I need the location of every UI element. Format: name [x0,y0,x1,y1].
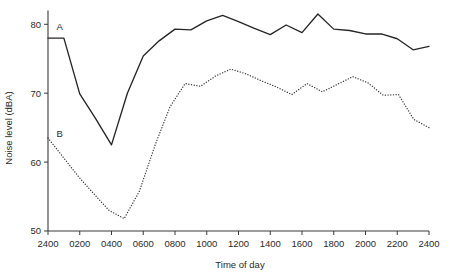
chart-svg: 50607080 2400020004000600080010001200140… [0,0,450,276]
x-tick-label: 0400 [101,238,122,249]
x-tick-label: 0200 [69,238,90,249]
y-tick-label: 60 [30,157,41,168]
y-tick-label: 50 [30,225,41,236]
x-tick-label: 1800 [323,238,344,249]
y-axis-title: Noise level (dBA) [3,91,14,164]
x-tick-label: 2000 [355,238,376,249]
x-tick-label: 2200 [387,238,408,249]
y-tick-label: 70 [30,88,41,99]
series-line-b [48,69,429,219]
series-line-a [48,14,429,145]
x-tick-label: 1000 [196,238,217,249]
x-axis-tick-labels: 2400020004000600080010001200140016001800… [37,238,439,249]
x-axis-ticks [48,231,429,235]
x-tick-label: 0800 [164,238,185,249]
x-tick-label: 2400 [37,238,58,249]
y-axis-tick-labels: 50607080 [30,19,41,237]
series-label-a: A [57,21,64,32]
y-tick-label: 80 [30,19,41,30]
noise-level-chart: 50607080 2400020004000600080010001200140… [0,0,450,276]
plot-axes [44,11,429,235]
x-axis-title: Time of day [215,259,265,270]
series-label-b: B [57,128,63,139]
data-series-group [48,14,429,219]
x-tick-label: 2400 [418,238,439,249]
x-tick-label: 1200 [228,238,249,249]
x-tick-label: 1400 [260,238,281,249]
y-axis-ticks [44,24,48,231]
x-tick-label: 0600 [133,238,154,249]
x-tick-label: 1600 [291,238,312,249]
